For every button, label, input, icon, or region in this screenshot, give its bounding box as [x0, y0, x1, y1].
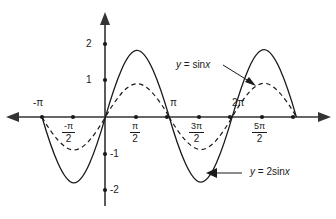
fraction-denominator: 2	[62, 134, 75, 145]
x-tick-label-neg-pi: -π	[33, 98, 43, 108]
y-tick-label-neg1: -1	[110, 149, 119, 159]
sine-graph-figure: 2 1 -1 -2 -π π 2π -π 2 π 2 3π 2 5π 2 y =…	[0, 0, 336, 219]
x-axis-right-arrow-icon	[318, 112, 331, 122]
fraction-numerator: -π	[62, 122, 75, 131]
sin-annotation-arrow-icon	[245, 77, 256, 86]
fraction-denominator: 2	[252, 134, 267, 145]
twosin-curve-annotation-label: y = 2sinx	[250, 167, 290, 177]
plot-canvas	[0, 0, 336, 219]
y-tick-label-2: 2	[86, 39, 92, 49]
fraction-numerator: 5π	[252, 122, 267, 131]
annot-x-symbol: x	[205, 59, 210, 70]
fraction-denominator: 2	[189, 134, 204, 145]
x-tick-label-2pi: 2π	[232, 98, 244, 108]
annot-equation-text: = sin	[181, 59, 205, 70]
y-tick-label-neg2: -2	[110, 185, 119, 195]
x-axis-left-arrow-icon	[6, 112, 19, 122]
annot-x-symbol: x	[285, 166, 290, 177]
fraction-denominator: 2	[130, 134, 140, 145]
x-tick-label-5pi-over-2: 5π 2	[252, 122, 267, 145]
fraction-numerator: 3π	[189, 122, 204, 131]
x-tick-label-neg-pi-over-2: -π 2	[62, 122, 75, 145]
sin-curve-annotation-label: y = sinx	[176, 60, 210, 70]
annot-equation-text: = 2sin	[255, 166, 285, 177]
x-tick-label-pi: π	[170, 98, 177, 108]
x-tick-label-pi-over-2: π 2	[130, 122, 140, 145]
y-tick-label-1: 1	[86, 75, 92, 85]
y-axis-up-arrow-icon	[100, 12, 110, 25]
fraction-numerator: π	[130, 122, 140, 131]
x-tick-label-3pi-over-2: 3π 2	[189, 122, 204, 145]
twosin-annotation-arrow-icon	[206, 168, 217, 178]
